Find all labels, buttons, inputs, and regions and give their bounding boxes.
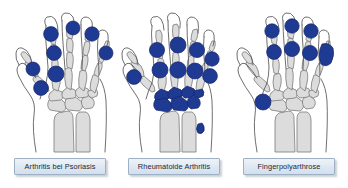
joint-marker-index-dip — [265, 24, 279, 38]
joint-marker-index-pip — [149, 42, 164, 57]
hand-skeleton-diagram — [116, 3, 232, 153]
joint-marker-middle-pip — [170, 37, 186, 53]
panel-fingerpolyarthrose: Fingerpolyarthrose — [230, 0, 348, 188]
joint-marker-ring-dip — [304, 24, 318, 38]
joint-marker-index-pip — [267, 45, 282, 60]
joint-marker-ring-pip — [302, 45, 317, 60]
joint-marker-little-dip-pip-merged — [319, 44, 333, 66]
joint-marker-index-mcp — [152, 62, 168, 78]
joint-marker-little-pip — [99, 46, 113, 60]
joint-marker-ring-mcp — [187, 63, 203, 79]
joint-marker-middle-mcp — [170, 62, 186, 78]
joint-marker-little-pip — [205, 52, 219, 66]
hand-skeleton-diagram — [230, 3, 348, 153]
joint-marker-index-pip — [47, 46, 62, 61]
panel-label-arthritis-bei-psoriasis: Arthritis bei Psoriasis — [14, 158, 106, 175]
joint-marker-middle-dip — [285, 19, 299, 33]
panel-label-rheumatoide-arthritis: Rheumatoide Arthritis — [128, 158, 220, 175]
joint-marker-ring-pip — [189, 42, 204, 57]
joint-marker-index-dip — [44, 27, 59, 42]
panel-label-wrapper: Rheumatoide Arthritis — [116, 158, 232, 175]
hand-skeleton-diagram — [2, 3, 118, 153]
joint-marker-index-mcp — [48, 66, 64, 82]
joint-marker-thumb-mcp — [127, 70, 142, 85]
arthritis-hand-diagram-figure: Arthritis bei Psoriasis — [0, 0, 348, 188]
panel-arthritis-bei-psoriasis: Arthritis bei Psoriasis — [2, 0, 118, 188]
panel-rheumatoide-arthritis: Rheumatoide Arthritis — [116, 0, 232, 188]
panel-label-wrapper: Arthritis bei Psoriasis — [2, 158, 118, 175]
joint-marker-ring-dip — [85, 27, 99, 41]
joint-marker-thumb-mcp — [34, 81, 49, 96]
joint-marker-thumb-ip — [26, 62, 40, 76]
panel-label-wrapper: Fingerpolyarthrose — [230, 158, 348, 175]
joint-marker-middle-pip — [284, 41, 299, 56]
joint-marker-middle-dip — [66, 21, 80, 35]
joint-marker-little-mcp — [203, 69, 218, 84]
joint-marker-thumb-cmc — [255, 94, 271, 110]
panel-label-fingerpolyarthrose: Fingerpolyarthrose — [243, 158, 335, 175]
